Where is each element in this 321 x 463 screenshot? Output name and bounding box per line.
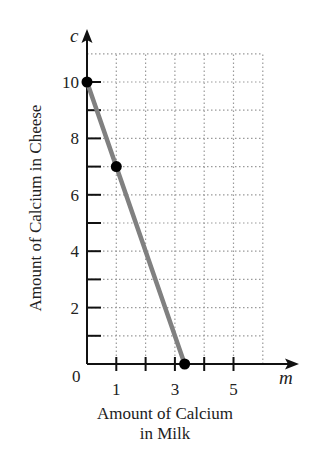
data-point [111, 161, 122, 172]
x-tick-label: 1 [112, 380, 121, 399]
x-tick-label: 5 [229, 380, 238, 399]
chart: 135246810 c m 0 Amount of Calcium in Mil… [0, 0, 321, 463]
y-tick-label: 6 [71, 186, 80, 205]
data-series [87, 82, 185, 364]
data-point [179, 359, 190, 370]
x-axis-variable: m [279, 367, 293, 388]
axes [82, 29, 300, 370]
y-tick-label: 8 [71, 129, 80, 148]
y-tick-label: 10 [62, 73, 79, 92]
x-axis-title-line2: in Milk [140, 424, 191, 443]
y-tick-label: 4 [71, 242, 80, 261]
y-axis-title: Amount of Calcium in Cheese [26, 105, 45, 312]
data-point [82, 77, 93, 88]
data-line [87, 82, 185, 364]
x-tick-label: 3 [171, 380, 180, 399]
x-axis-title-line1: Amount of Calcium [97, 404, 233, 423]
y-tick-label: 2 [71, 299, 80, 318]
ticks: 135246810 [62, 73, 238, 399]
y-axis-variable: c [70, 25, 79, 46]
origin-label: 0 [72, 367, 81, 386]
grid [87, 54, 263, 364]
